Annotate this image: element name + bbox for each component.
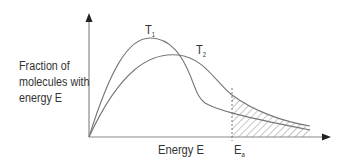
hatched-region (89, 55, 310, 137)
y-axis-label-line-3: energy E (19, 90, 96, 106)
y-axis-label-line-1: Fraction of (19, 58, 96, 74)
x-axis-arrow-icon (322, 134, 331, 141)
energy-distribution-diagram: Fraction of molecules with energy E T1 T… (0, 0, 346, 162)
t2-label: T2 (196, 43, 206, 58)
t1-label: T1 (145, 23, 155, 38)
y-axis-arrow-icon (86, 13, 93, 22)
ea-label: Ea (234, 143, 245, 158)
y-axis-label-line-2: molecules with (19, 74, 96, 90)
y-axis-label: Fraction of molecules with energy E (19, 58, 96, 106)
x-axis-label: Energy E (158, 143, 204, 156)
